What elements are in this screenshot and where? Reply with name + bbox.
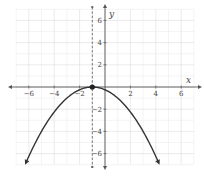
- x-tick-label: −4: [49, 90, 60, 98]
- tick-labels: −6−4−2246642−2−4−6: [24, 17, 184, 158]
- y-tick-label: −4: [92, 128, 103, 136]
- y-tick-label: −2: [92, 106, 102, 114]
- x-tick-label: 2: [128, 90, 132, 98]
- vertex-point: [90, 84, 95, 89]
- parabola-chart: −6−4−2246642−2−4−6 x y: [0, 0, 204, 176]
- y-axis-label: y: [108, 9, 115, 19]
- y-tick-label: 6: [98, 17, 103, 25]
- y-tick-label: 2: [98, 61, 102, 69]
- y-tick-label: 4: [98, 39, 103, 47]
- dashed-line-end-icon: [91, 6, 93, 8]
- x-axis-label: x: [186, 75, 191, 85]
- x-tick-label: 4: [154, 90, 159, 98]
- dashed-line-end-icon: [91, 166, 93, 168]
- x-tick-label: 6: [179, 90, 184, 98]
- y-axis-arrow-icon: [103, 4, 107, 8]
- axes: [8, 4, 202, 170]
- x-tick-label: −6: [24, 90, 35, 98]
- y-tick-label: −6: [92, 150, 103, 158]
- x-axis-arrow-icon: [198, 85, 202, 89]
- y-axis-arrow-icon: [103, 166, 107, 170]
- x-axis-arrow-icon: [8, 85, 12, 89]
